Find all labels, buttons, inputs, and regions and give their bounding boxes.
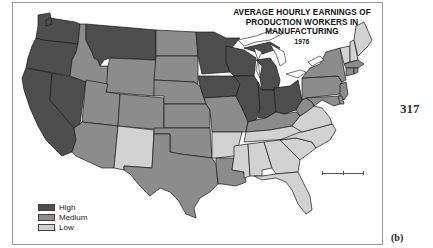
page-number: 317: [400, 101, 420, 117]
state-rhode-island: [354, 68, 358, 74]
state-washington: [36, 13, 80, 44]
title-line-1: AVERAGE HOURLY EARNINGS OF: [232, 8, 372, 18]
legend-label-medium: Medium: [59, 213, 87, 222]
state-arizona: [72, 122, 118, 168]
state-north-dakota: [156, 30, 198, 56]
legend: High Medium Low: [38, 202, 87, 232]
title-line-2: PRODUCTION WORKERS IN: [232, 18, 372, 28]
state-florida: [254, 172, 312, 214]
legend-label-low: Low: [59, 223, 74, 232]
legend-label-high: High: [59, 203, 75, 212]
scale-bar: [322, 171, 364, 177]
legend-swatch-medium: [38, 214, 55, 221]
state-new-mexico: [114, 126, 154, 170]
legend-item-low: Low: [38, 222, 87, 232]
state-iowa: [198, 76, 240, 98]
state-kansas: [164, 104, 210, 128]
state-new-york: [302, 48, 346, 82]
state-colorado: [118, 94, 164, 130]
state-connecticut: [346, 68, 354, 76]
state-south-dakota: [154, 56, 198, 84]
legend-swatch-high: [38, 204, 55, 211]
panel-label: (b): [391, 232, 403, 243]
title-year: 1976: [232, 37, 372, 47]
state-wyoming: [106, 58, 156, 96]
legend-swatch-low: [38, 224, 55, 231]
map-title: AVERAGE HOURLY EARNINGS OF PRODUCTION WO…: [232, 8, 372, 46]
title-line-3: MANUFACTURING: [232, 27, 372, 37]
legend-item-high: High: [38, 202, 87, 212]
legend-item-medium: Medium: [38, 212, 87, 222]
